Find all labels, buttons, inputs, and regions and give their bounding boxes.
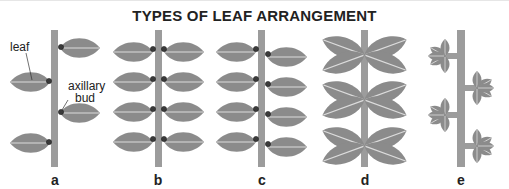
panel-c-subopposite [216,30,307,167]
panel-label-a: a [45,172,65,188]
stem [457,30,465,167]
panel-e-compound [428,30,494,167]
panel-b-opposite [113,30,204,167]
stem [258,30,265,167]
panel-label-e: e [451,172,471,188]
axillary-callout-line2: bud [75,92,95,104]
stem [155,30,162,167]
leaf-callout: leaf [10,41,29,53]
panel-label-c: c [252,172,272,188]
stem [51,30,58,167]
panel-label-d: d [355,172,375,188]
panel-label-b: b [148,172,168,188]
panel-d-whorled [319,30,410,170]
